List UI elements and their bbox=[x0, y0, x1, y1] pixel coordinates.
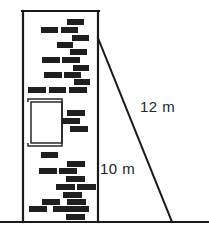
brick bbox=[73, 65, 89, 71]
wall-ladder-diagram bbox=[0, 0, 209, 235]
brick bbox=[28, 87, 46, 93]
brick bbox=[41, 152, 58, 158]
brick bbox=[39, 168, 57, 174]
brick bbox=[57, 42, 73, 48]
brick bbox=[53, 206, 71, 212]
wall-recess-outer-outline bbox=[28, 99, 62, 146]
brick bbox=[67, 161, 85, 167]
brick bbox=[29, 206, 47, 212]
brick bbox=[67, 110, 85, 116]
wall-height-label: 10 m bbox=[100, 160, 135, 177]
brick bbox=[63, 192, 82, 198]
ladder-length-label: 12 m bbox=[140, 98, 175, 115]
brick bbox=[49, 87, 66, 93]
brick bbox=[77, 184, 96, 190]
brick bbox=[72, 35, 89, 41]
wall-recess-open-side bbox=[25, 102, 30, 143]
brick bbox=[69, 87, 87, 93]
brick bbox=[74, 79, 90, 85]
wall-recess-inner-outline bbox=[31, 102, 62, 143]
brick bbox=[42, 57, 60, 63]
brick bbox=[44, 72, 62, 78]
brick bbox=[41, 27, 58, 33]
brick bbox=[56, 184, 75, 190]
brick bbox=[71, 206, 89, 212]
brick bbox=[59, 168, 77, 174]
figure-container: 12 m 10 m bbox=[0, 0, 209, 235]
brick bbox=[66, 214, 85, 220]
brick bbox=[66, 176, 85, 182]
brick bbox=[62, 118, 80, 124]
ladder-hypotenuse-line bbox=[98, 38, 172, 222]
brick bbox=[67, 19, 84, 25]
brick bbox=[61, 27, 78, 33]
brick bbox=[62, 57, 80, 63]
brick bbox=[70, 49, 87, 55]
brick bbox=[67, 199, 86, 205]
brick bbox=[70, 126, 88, 132]
brick bbox=[64, 72, 81, 78]
brick bbox=[42, 199, 60, 205]
